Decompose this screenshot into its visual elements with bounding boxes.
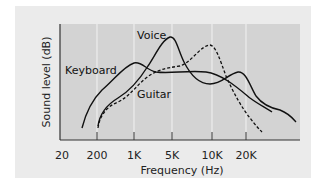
line-chart: 20 200 1K 5K 10K 20K Frequency (Hz) Soun… <box>0 0 328 189</box>
tick-label-10k: 10K <box>201 149 223 162</box>
x-axis-title: Frequency (Hz) <box>141 164 224 177</box>
tick-label-5k: 5K <box>165 149 180 162</box>
tick-label-200: 200 <box>87 149 108 162</box>
tick-label-20k: 20K <box>235 149 257 162</box>
tick-label-1k: 1K <box>127 149 142 162</box>
y-axis-title: Sound level (dB) <box>40 37 53 128</box>
plot-area <box>60 24 300 140</box>
guitar-label: Guitar <box>137 88 172 101</box>
voice-label: Voice <box>137 29 167 42</box>
keyboard-label: Keyboard <box>65 64 117 77</box>
tick-label-20: 20 <box>55 149 69 162</box>
